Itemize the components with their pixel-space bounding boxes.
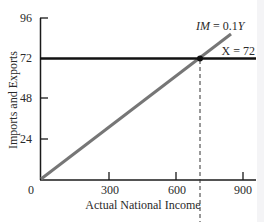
import-line-label-eq: = 0.1	[210, 19, 238, 33]
chart: 96 72 48 24 0 300 600 900 Actual Nationa…	[0, 0, 264, 222]
export-line-label: X = 72	[222, 44, 255, 58]
y-tick-label-24: 24	[20, 132, 32, 146]
x-tick-label-300: 300	[101, 183, 119, 197]
x-tick-label-0: 0	[28, 183, 34, 197]
y-tick-label-96: 96	[20, 11, 32, 25]
import-line-label-im: IM	[195, 19, 211, 33]
x-axis-title: Actual National Income	[85, 198, 200, 212]
import-line-label-y: Y	[238, 19, 246, 33]
import-line	[41, 34, 231, 179]
x-tick-label-900: 900	[234, 183, 252, 197]
y-axis-title: Imports and Exports	[6, 51, 20, 149]
intersection-point	[197, 56, 203, 62]
y-tick-label-72: 72	[20, 51, 32, 65]
x-tick-label-600: 600	[168, 183, 186, 197]
y-tick-label-48: 48	[20, 91, 32, 105]
import-line-label: IM = 0.1Y	[195, 19, 246, 33]
